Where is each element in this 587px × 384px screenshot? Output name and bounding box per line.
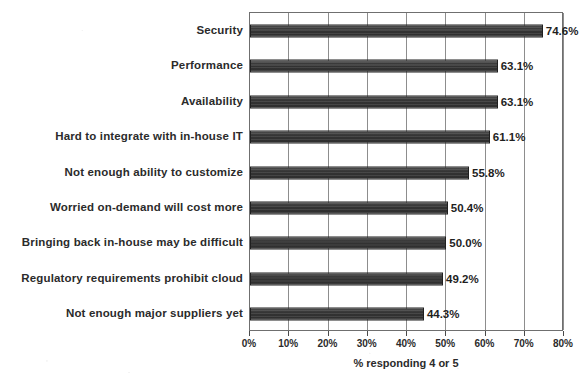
- bar-value-label: 55.8%: [472, 166, 505, 179]
- bar: [250, 201, 448, 214]
- bar: [250, 272, 443, 285]
- x-axis-tick-label: 0%: [242, 338, 256, 349]
- x-axis-tick-label: 70%: [514, 338, 534, 349]
- category-label: Not enough major suppliers yet: [0, 307, 243, 320]
- category-label: Performance: [0, 59, 243, 72]
- bar: [250, 131, 490, 144]
- category-label: Worried on-demand will cost more: [0, 200, 243, 213]
- category-label: Availability: [0, 94, 243, 107]
- bar-value-label: 50.4%: [451, 201, 484, 214]
- bar-value-label: 63.1%: [501, 60, 534, 73]
- x-axis-tick: [563, 331, 564, 336]
- x-axis-tick: [249, 331, 250, 336]
- bar: [250, 60, 498, 73]
- bar-chart: SecurityPerformanceAvailabilityHard to i…: [0, 0, 587, 384]
- x-axis-tick-label: 60%: [474, 338, 494, 349]
- plot-area: 74.6%63.1%63.1%61.1%55.8%50.4%50.0%49.2%…: [249, 12, 563, 331]
- bar: [250, 166, 469, 179]
- gridline: [563, 13, 564, 330]
- bar: [250, 308, 424, 321]
- bar-value-label: 44.3%: [427, 308, 460, 321]
- x-axis-tick-label: 50%: [435, 338, 455, 349]
- bar: [250, 24, 543, 37]
- bar-value-label: 61.1%: [493, 131, 526, 144]
- bar: [250, 95, 498, 108]
- category-label: Not enough ability to customize: [0, 165, 243, 178]
- x-axis-tick-label: 10%: [278, 338, 298, 349]
- x-axis: 0%10%20%30%40%50%60%70%80%: [249, 331, 563, 357]
- bar-value-label: 63.1%: [501, 95, 534, 108]
- x-axis-tick-label: 20%: [317, 338, 337, 349]
- x-axis-tick: [328, 331, 329, 336]
- category-label: Hard to integrate with in-house IT: [0, 130, 243, 143]
- bar-value-label: 49.2%: [446, 272, 479, 285]
- bar-value-label: 50.0%: [449, 237, 482, 250]
- x-axis-tick: [288, 331, 289, 336]
- category-label: Bringing back in-house may be difficult: [0, 236, 243, 249]
- x-axis-tick: [406, 331, 407, 336]
- x-axis-tick-label: 40%: [396, 338, 416, 349]
- x-axis-title: % responding 4 or 5: [249, 357, 563, 369]
- bar-value-label: 74.6%: [546, 24, 579, 37]
- category-axis-labels: SecurityPerformanceAvailabilityHard to i…: [0, 12, 243, 331]
- x-axis-tick: [485, 331, 486, 336]
- category-label: Security: [0, 23, 243, 36]
- x-axis-tick-label: 80%: [553, 338, 573, 349]
- bar: [250, 237, 446, 250]
- x-axis-tick: [445, 331, 446, 336]
- x-axis-tick: [524, 331, 525, 336]
- category-label: Regulatory requirements prohibit cloud: [0, 271, 243, 284]
- x-axis-tick: [367, 331, 368, 336]
- x-axis-tick-label: 30%: [357, 338, 377, 349]
